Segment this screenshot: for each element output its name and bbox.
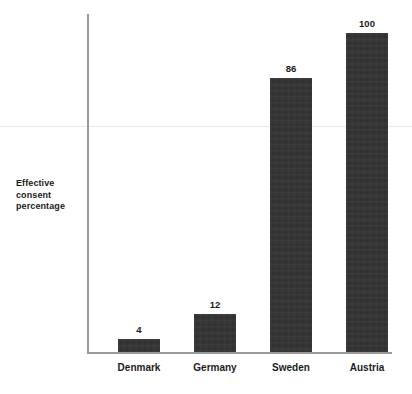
bar-group: 12 bbox=[177, 14, 253, 352]
category-label: Germany bbox=[177, 362, 253, 373]
bar bbox=[270, 78, 312, 352]
bar-group: 86 bbox=[253, 14, 329, 352]
category-label: Denmark bbox=[101, 362, 177, 373]
bar-value-label: 86 bbox=[286, 63, 297, 74]
bar bbox=[118, 339, 160, 352]
bar bbox=[346, 33, 388, 352]
y-axis-label-line-1: Effective bbox=[16, 178, 86, 190]
x-axis-line bbox=[87, 352, 392, 354]
bar-group: 100 bbox=[329, 14, 405, 352]
category-label: Austria bbox=[329, 362, 405, 373]
bar-value-label: 4 bbox=[136, 324, 141, 335]
plot-area: 41286100 bbox=[87, 14, 392, 352]
bar-chart: Effective consent percentage 41286100 De… bbox=[0, 0, 412, 394]
bar-group: 4 bbox=[101, 14, 177, 352]
bar bbox=[194, 314, 236, 352]
bar-value-label: 12 bbox=[210, 299, 221, 310]
y-axis-label-line-2: consent bbox=[16, 190, 86, 202]
category-label: Sweden bbox=[253, 362, 329, 373]
y-axis-label-line-3: percentage bbox=[16, 201, 86, 213]
y-axis-label: Effective consent percentage bbox=[16, 178, 86, 213]
bar-value-label: 100 bbox=[359, 18, 375, 29]
